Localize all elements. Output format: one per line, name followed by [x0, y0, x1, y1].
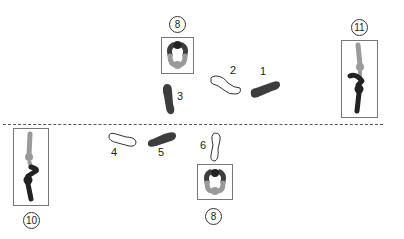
player-number-badge-top-8: 8	[169, 16, 186, 33]
step-number-3: 3	[177, 90, 183, 102]
player-number-label: 11	[354, 22, 364, 33]
halfway-dashed-line	[3, 124, 383, 125]
step-number-5: 5	[158, 146, 164, 158]
player-number-label: 10	[26, 215, 37, 226]
player-side-view-icon	[14, 129, 48, 205]
step-number-4: 4	[111, 146, 117, 158]
player-top-view-icon	[198, 165, 232, 199]
player-box-right-11	[341, 40, 378, 118]
player-box-top-8	[161, 37, 194, 74]
player-number-badge-left-10: 10	[23, 212, 40, 229]
player-number-badge-bottom-8: 8	[205, 208, 222, 225]
player-box-left-10	[13, 128, 49, 206]
player-top-view-icon	[162, 38, 193, 73]
player-number-label: 8	[211, 211, 217, 222]
player-number-label: 8	[175, 19, 181, 30]
footprint-step-1-icon	[248, 78, 282, 100]
step-number-1: 1	[260, 65, 266, 77]
player-side-view-icon	[342, 41, 377, 117]
footprint-step-3-icon	[160, 82, 178, 116]
player-number-badge-right-11: 11	[351, 19, 368, 36]
step-number-6: 6	[200, 139, 206, 151]
footprint-step-6-icon	[207, 131, 223, 163]
step-number-2: 2	[230, 64, 236, 76]
footprint-step-2-icon	[208, 74, 244, 96]
player-box-bottom-8	[197, 164, 233, 200]
